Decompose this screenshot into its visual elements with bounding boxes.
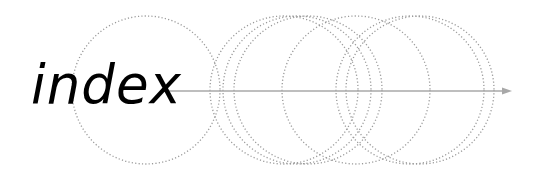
dotted-circle — [234, 16, 382, 164]
dotted-circle — [346, 16, 494, 164]
index-logo: index — [0, 0, 534, 179]
logo-title: index — [31, 50, 182, 120]
dotted-circle — [223, 16, 371, 164]
arrow-head-icon — [502, 88, 512, 95]
dotted-circle — [282, 16, 430, 164]
